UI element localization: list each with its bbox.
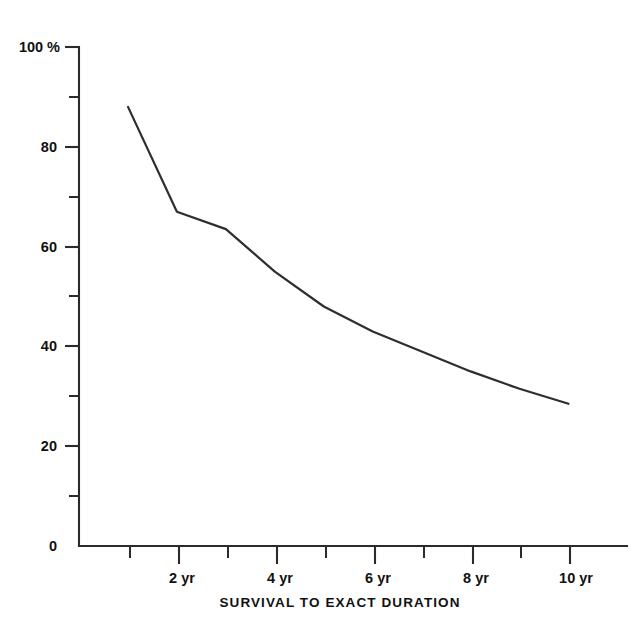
y-axis-label-80: 80 <box>41 139 57 155</box>
x-axis-label-2yr: 2 yr <box>169 570 195 586</box>
x-axis-label-4yr: 4 yr <box>267 570 293 586</box>
x-axis-label-10yr: 10 yr <box>559 570 593 586</box>
survival-line-chart: 100 % 80 60 40 20 0 2 yr 4 yr 6 yr 8 yr … <box>0 0 643 638</box>
x-axis-label-6yr: 6 yr <box>365 570 391 586</box>
chart-figure: 100 % 80 60 40 20 0 2 yr 4 yr 6 yr 8 yr … <box>0 0 643 638</box>
y-axis-label-0: 0 <box>49 538 57 554</box>
x-axis-title: SURVIVAL TO EXACT DURATION <box>219 595 460 610</box>
chart-background <box>0 0 643 638</box>
y-axis-label-60: 60 <box>41 239 57 255</box>
y-axis-label-40: 40 <box>41 338 57 354</box>
y-axis-label-100: 100 % <box>19 39 60 55</box>
y-axis-label-20: 20 <box>41 438 57 454</box>
x-axis-label-8yr: 8 yr <box>463 570 489 586</box>
